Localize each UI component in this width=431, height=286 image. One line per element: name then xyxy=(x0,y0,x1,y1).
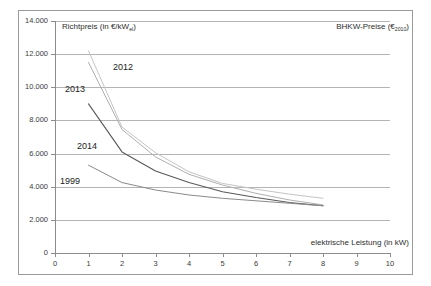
series-curves xyxy=(0,0,431,286)
series-line-2013 xyxy=(89,62,324,205)
series-label-2014: 2014 xyxy=(77,141,97,151)
series-label-2012: 2012 xyxy=(113,62,133,72)
series-label-2013: 2013 xyxy=(65,84,85,94)
series-line-2012 xyxy=(89,51,324,198)
chart-figure: 02.0004.0006.0008.00010.00012.00014.000 … xyxy=(0,0,431,286)
series-label-1999: 1999 xyxy=(60,176,80,186)
series-line-2014 xyxy=(89,104,324,206)
